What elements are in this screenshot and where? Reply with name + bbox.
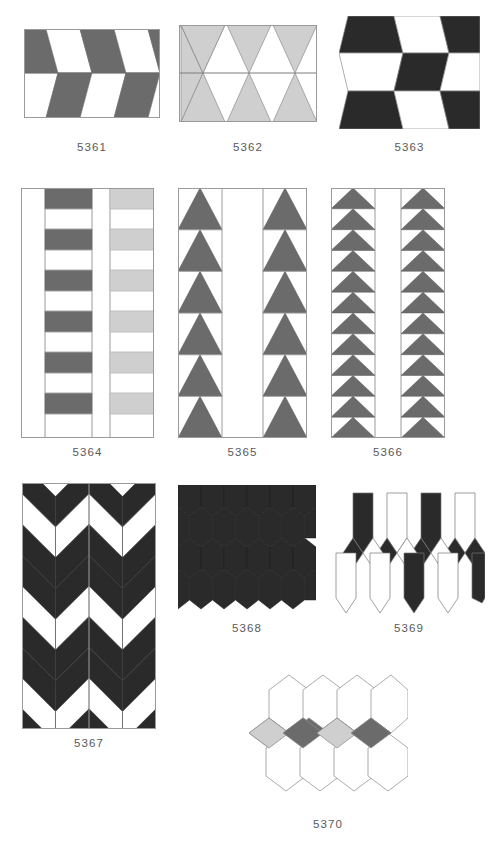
pattern-caption-5370: 5370 bbox=[248, 818, 408, 830]
pattern-tile-5370 bbox=[248, 670, 408, 805]
pattern-tile-5364 bbox=[21, 188, 154, 438]
pattern-caption-5368: 5368 bbox=[178, 622, 316, 634]
pattern-svg-5365 bbox=[178, 188, 307, 438]
pattern-caption-5362: 5362 bbox=[179, 141, 317, 153]
pattern-tile-5369 bbox=[333, 483, 485, 613]
pattern-svg-5368 bbox=[178, 485, 316, 613]
pattern-svg-5366 bbox=[331, 188, 445, 438]
pattern-caption-5367: 5367 bbox=[22, 737, 156, 749]
pattern-tile-5363 bbox=[339, 16, 480, 129]
pattern-tile-5368 bbox=[178, 485, 316, 613]
pattern-svg-5362 bbox=[179, 25, 317, 122]
pattern-tile-5366 bbox=[331, 188, 445, 438]
pattern-caption-5366: 5366 bbox=[331, 446, 445, 458]
pattern-caption-5365: 5365 bbox=[178, 446, 307, 458]
pattern-svg-5361 bbox=[24, 29, 160, 118]
pattern-caption-5364: 5364 bbox=[21, 446, 154, 458]
pattern-tile-5367 bbox=[22, 483, 156, 729]
pattern-tile-5365 bbox=[178, 188, 307, 438]
pattern-svg-5369 bbox=[333, 483, 485, 613]
pattern-svg-5363 bbox=[339, 16, 480, 129]
pattern-tile-5361 bbox=[24, 29, 160, 118]
pattern-svg-5364 bbox=[21, 188, 154, 438]
pattern-caption-5369: 5369 bbox=[333, 622, 485, 634]
pattern-sheet: 5361 5362 bbox=[0, 0, 501, 847]
pattern-caption-5361: 5361 bbox=[24, 141, 160, 153]
pattern-svg-5370 bbox=[248, 670, 408, 805]
pattern-svg-5367 bbox=[22, 483, 156, 729]
pattern-caption-5363: 5363 bbox=[339, 141, 480, 153]
pattern-tile-5362 bbox=[179, 25, 317, 122]
